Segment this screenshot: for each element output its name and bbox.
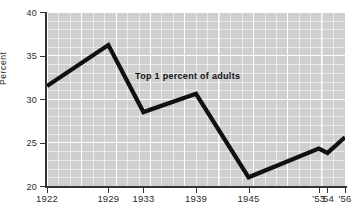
y-axis-title: Percent bbox=[0, 52, 8, 86]
y-tick-label: 30 bbox=[27, 95, 37, 105]
y-tick-mark bbox=[40, 12, 46, 13]
chart-figure: 4035302520 19221929193319391945'53'54'56… bbox=[0, 0, 358, 215]
x-tick-label: 1922 bbox=[36, 193, 58, 204]
y-tick-label: 35 bbox=[27, 51, 37, 61]
y-tick-label: 40 bbox=[27, 8, 37, 18]
x-tick-label: 1945 bbox=[238, 193, 260, 204]
x-tick-label: '56 bbox=[339, 193, 352, 204]
x-tick-label: 1939 bbox=[185, 193, 207, 204]
x-tick-label: 1929 bbox=[97, 193, 119, 204]
y-tick-mark bbox=[40, 99, 46, 100]
x-tick-label: 1933 bbox=[132, 193, 154, 204]
y-tick-mark bbox=[40, 186, 46, 187]
series-line-top-1-percent-of-adults bbox=[47, 12, 345, 186]
y-tick-label: 20 bbox=[27, 182, 37, 192]
plot-area bbox=[47, 12, 345, 186]
y-axis-line bbox=[45, 12, 47, 188]
x-tick-label: '54 bbox=[321, 193, 334, 204]
series-annotation-label: Top 1 percent of adults bbox=[135, 71, 240, 81]
y-tick-mark bbox=[40, 143, 46, 144]
y-tick-label: 25 bbox=[27, 138, 37, 148]
y-tick-mark bbox=[40, 56, 46, 57]
